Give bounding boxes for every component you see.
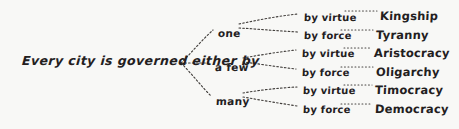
mode-label-afew-virtue: by virtue — [302, 49, 355, 59]
edge-many-to-virtue — [243, 87, 297, 93]
outcome-label-tyranny: Tyranny — [376, 30, 429, 42]
edge-one-to-virtue — [239, 14, 298, 24]
mode-label-many-force: by force — [303, 105, 351, 115]
mode-label-afew-force: by force — [302, 68, 350, 78]
mode-label-one-virtue: by virtue — [304, 13, 357, 23]
edge-one-to-force — [239, 28, 298, 32]
branch-label-a-few: a few — [215, 62, 249, 73]
edge-many-to-force — [243, 97, 297, 106]
outcome-label-democracy: Democracy — [375, 104, 449, 116]
diagram-canvas: Every city is governed either by one a f… — [0, 0, 459, 129]
outcome-label-aristocracy: Aristocracy — [374, 48, 450, 60]
branch-label-one: one — [218, 28, 241, 39]
outcome-label-timocracy: Timocracy — [375, 85, 444, 97]
branch-label-many: many — [216, 96, 250, 107]
outcome-label-oligarchy: Oligarchy — [376, 67, 440, 79]
outcome-label-kingship: Kingship — [380, 11, 439, 23]
mode-label-one-force: by force — [304, 31, 352, 41]
mode-label-many-virtue: by virtue — [303, 86, 356, 96]
